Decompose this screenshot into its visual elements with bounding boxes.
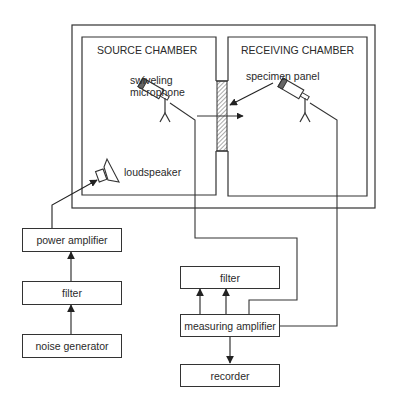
microphone-label: microphone bbox=[130, 87, 185, 98]
loudspeaker-icon bbox=[96, 159, 119, 182]
filter-box-left: filter bbox=[22, 281, 122, 305]
recorder-box: recorder bbox=[180, 364, 280, 387]
receiving-chamber-label: RECEIVING CHAMBER bbox=[241, 45, 354, 56]
specimen-panel-label: specimen panel bbox=[246, 71, 320, 82]
specimen-pointer bbox=[230, 83, 273, 105]
source-chamber-label: SOURCE CHAMBER bbox=[97, 45, 197, 56]
loudspeaker-label: loudspeaker bbox=[124, 167, 181, 178]
swiveling-label: swiveling bbox=[130, 75, 173, 86]
wire-power-amp-to-speaker bbox=[52, 180, 97, 228]
receiving-chamber-wall bbox=[228, 37, 367, 196]
power-amplifier-box: power amplifier bbox=[22, 228, 122, 252]
measuring-amplifier-box: measuring amplifier bbox=[180, 314, 280, 337]
receiving-microphone-icon bbox=[278, 78, 311, 122]
filter-box-right: filter bbox=[180, 266, 280, 289]
wire-receiving-mic bbox=[280, 103, 337, 326]
noise-generator-box: noise generator bbox=[22, 334, 122, 358]
